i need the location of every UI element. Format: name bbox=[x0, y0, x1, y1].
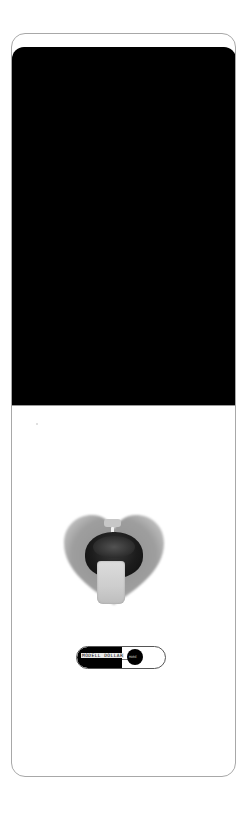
dust-speck bbox=[36, 423, 38, 425]
toggle-left-half: MODELL DOLLAR bbox=[77, 647, 122, 668]
toggle-label: MODELL DOLLAR bbox=[81, 653, 124, 658]
toggle-switch[interactable]: MODELL DOLLAR MORE bbox=[76, 646, 166, 669]
ring-stone-slab bbox=[97, 561, 125, 604]
screen-divider bbox=[12, 405, 236, 406]
toggle-knob[interactable]: MORE bbox=[127, 649, 143, 665]
ring-inner bbox=[93, 536, 135, 558]
product-image bbox=[62, 513, 166, 607]
toggle-knob-text: MORE bbox=[129, 655, 137, 659]
ring-top-tab bbox=[104, 519, 121, 527]
black-screen-area bbox=[12, 47, 236, 405]
